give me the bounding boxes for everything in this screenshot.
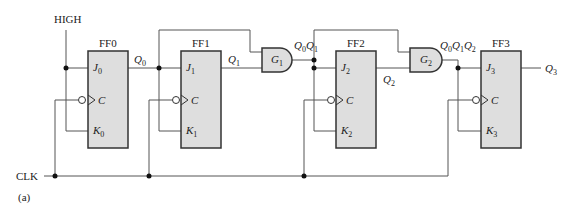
ff1-c-pin: C [191,95,198,106]
q1-label: Q1 [228,54,240,68]
ff0-clock-bubble [79,97,86,104]
junction-dot [53,174,58,179]
ff3-name: FF3 [492,38,510,49]
q0-label: Q0 [134,54,146,68]
junction-dot [157,66,162,71]
q2-label: Q2 [383,74,395,88]
ff1-name: FF1 [192,38,210,49]
g2-output-label: Q0Q1Q2 [440,40,476,54]
junction-dot [456,66,461,71]
ff3-c-pin: C [491,95,498,106]
ff3-clock-bubble [473,97,480,104]
junction-dot [312,66,317,71]
ff3-k-pin: K3 [486,125,497,139]
ff2-j-pin: J2 [341,62,350,76]
ff1-k-pin: K1 [186,125,197,139]
high-label: HIGH [54,14,82,25]
junction-dot [147,174,152,179]
ff3-j-pin: J3 [486,62,495,76]
ff0-k-pin: K0 [93,125,104,139]
ff2-k-pin: K2 [341,125,352,139]
junction-dot [302,174,307,179]
ff2-c-pin: C [346,95,353,106]
junction-dot [312,58,317,63]
ff1-clock-bubble [173,97,180,104]
figure-caption: (a) [18,192,30,203]
q3-label: Q3 [545,63,557,77]
junction-dot [64,66,69,71]
ff0-name: FF0 [99,38,117,49]
ff2-clock-bubble [328,97,335,104]
ff1-j-pin: J1 [186,62,195,76]
ff2-name: FF2 [347,38,365,49]
clk-label: CLK [16,171,38,182]
g1-label: G1 [271,54,283,68]
ff0-c-pin: C [98,95,105,106]
g1-output-label: Q0Q1 [294,40,318,54]
circuit-diagram [0,0,568,220]
ff0-j-pin: J0 [93,62,102,76]
g2-label: G2 [420,54,432,68]
